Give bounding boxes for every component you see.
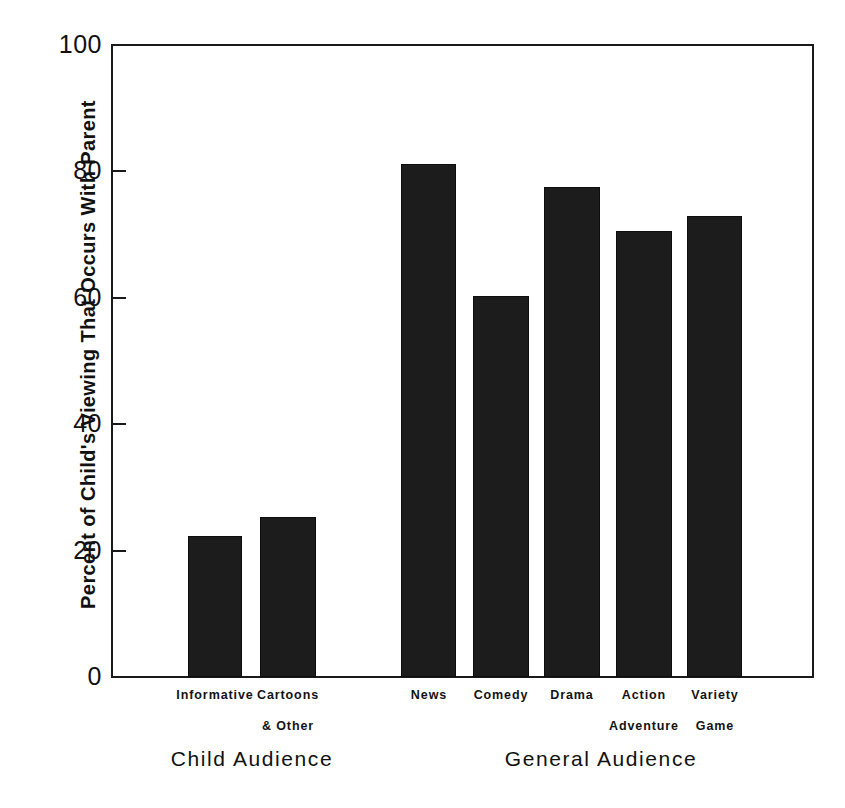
y-tick-label: 20 [30, 536, 102, 565]
y-tick-label: 60 [30, 283, 102, 312]
cat-label-variety-game: Variety Game [655, 688, 775, 733]
y-tick-label: 40 [30, 409, 102, 438]
bar-drama [544, 187, 600, 677]
bar-action-adventure [616, 231, 672, 677]
bar-news [401, 164, 456, 677]
bar-cartoons-other [260, 517, 316, 677]
cat-label-cartoons-other: Cartoons & Other [228, 688, 348, 733]
cat-label-line2: Game [655, 719, 775, 733]
y-tick-label: 80 [30, 156, 102, 185]
bar-informative [188, 536, 242, 677]
bar-variety-game [687, 216, 742, 677]
group-label-child-audience: Child Audience [132, 747, 372, 771]
y-tick-mark [111, 423, 126, 425]
cat-label-line1: Variety [691, 688, 738, 702]
bar-chart: Percent of Child's Viewing That Occurs W… [0, 0, 845, 808]
y-tick-label: 0 [30, 662, 102, 691]
y-tick-label: 100 [30, 30, 102, 59]
y-tick-mark [111, 170, 126, 172]
group-label-general-audience: General Audience [451, 747, 751, 771]
y-tick-mark [111, 297, 126, 299]
bar-comedy [473, 296, 529, 677]
y-tick-mark [111, 550, 126, 552]
cat-label-line1: Cartoons [257, 688, 319, 702]
y-axis-title: Percent of Child's Viewing That Occurs W… [77, 35, 100, 675]
cat-label-line2: & Other [228, 719, 348, 733]
